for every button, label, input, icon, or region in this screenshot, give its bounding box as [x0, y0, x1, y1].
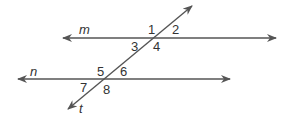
angle-label-8: 8 — [103, 82, 110, 97]
angle-label-6: 6 — [120, 64, 127, 79]
angle-label-2: 2 — [172, 22, 179, 37]
angle-label-1: 1 — [148, 22, 155, 37]
line-label-n: n — [30, 64, 37, 79]
line-label-t: t — [79, 101, 84, 116]
angle-label-7: 7 — [80, 80, 87, 95]
angle-label-3: 3 — [131, 39, 138, 54]
angle-label-5: 5 — [97, 64, 104, 79]
diagram-svg: 12345678mnt — [0, 0, 290, 119]
lines-group — [18, 6, 276, 109]
angle-label-4: 4 — [153, 39, 160, 54]
parallel-lines-diagram: 12345678mnt — [0, 0, 290, 119]
line-label-m: m — [79, 22, 90, 37]
